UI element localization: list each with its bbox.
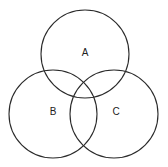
label-a: A [82, 47, 89, 58]
label-c: C [112, 106, 119, 117]
venn-diagram: A B C [0, 0, 168, 167]
label-b: B [50, 106, 57, 117]
